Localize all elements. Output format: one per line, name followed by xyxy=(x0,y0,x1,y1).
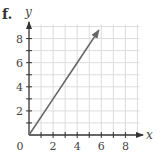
y-tick-label: 8 xyxy=(16,33,23,46)
x-tick-label: 0 xyxy=(17,140,24,153)
y-axis-label: y xyxy=(24,5,32,19)
data-series xyxy=(29,30,99,135)
ray-line xyxy=(29,30,99,135)
chart: 024682468 x y xyxy=(0,0,165,161)
grid xyxy=(29,25,139,135)
y-tick-label: 2 xyxy=(16,105,23,118)
x-tick-label: 8 xyxy=(122,140,129,153)
x-axis-label: x xyxy=(146,128,153,142)
x-tick-label: 2 xyxy=(50,140,57,153)
y-tick-label: 4 xyxy=(16,81,23,94)
x-tick-label: 4 xyxy=(74,140,81,153)
x-tick-label: 6 xyxy=(98,140,105,153)
y-tick-label: 6 xyxy=(16,57,23,70)
